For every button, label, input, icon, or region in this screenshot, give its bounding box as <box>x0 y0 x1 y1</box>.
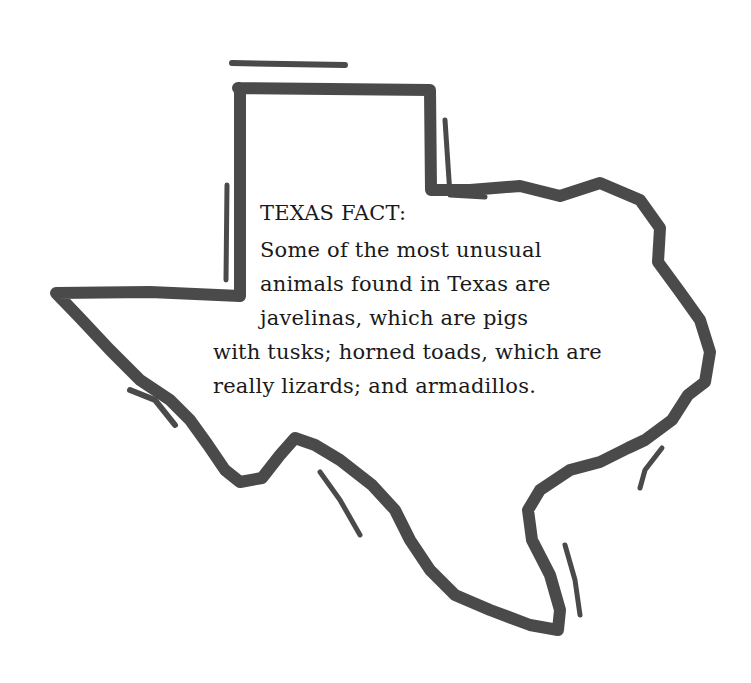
coast-accent-lower <box>565 545 580 615</box>
coast-accent-upper <box>640 448 662 488</box>
river-accent <box>320 472 360 535</box>
fact-line: with tusks; horned toads, which are <box>213 337 602 367</box>
fact-line: animals found in Texas are <box>260 269 551 299</box>
fact-line: really lizards; and armadillos. <box>213 371 536 401</box>
fact-line: javelinas, which are pigs <box>260 303 528 333</box>
panhandle-left-accent <box>226 185 227 280</box>
fact-heading: TEXAS FACT: <box>260 198 406 228</box>
fact-line: Some of the most unusual <box>260 235 542 265</box>
panhandle-top-accent <box>232 63 345 65</box>
